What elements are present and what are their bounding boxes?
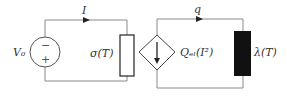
thermal-conductor-icon (234, 31, 251, 76)
current-label: I (81, 4, 87, 17)
thermal-conductor-label: λ(T) (253, 46, 277, 59)
heat-flow-label: q (194, 3, 201, 16)
source-plus: + (41, 53, 50, 66)
circuit-diagram: I − + V₀ σ(T) q Qₑₗ(I²) λ(T) (0, 0, 287, 100)
resistor-icon (120, 35, 134, 76)
heat-flow-arrow-icon (196, 16, 203, 22)
left-bottom-wire (45, 67, 127, 81)
source-minus: − (41, 39, 50, 52)
current-arrow-icon (83, 17, 90, 23)
right-top-wire (157, 19, 243, 35)
dependent-source-label: Qₑₗ(I²) (180, 46, 213, 59)
right-bottom-wire (157, 70, 243, 88)
left-top-wire (45, 20, 127, 37)
source-label: V₀ (13, 46, 26, 59)
resistor-label: σ(T) (90, 47, 113, 60)
